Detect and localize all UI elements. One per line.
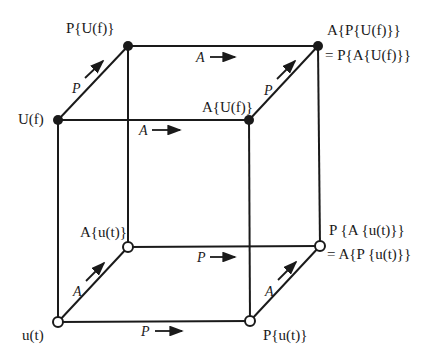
edge-label-bottom-front: P — [140, 324, 150, 339]
label-bottom-back-left: A{u(t)} — [80, 224, 127, 241]
label-top-back-left: P{U(f)} — [66, 20, 115, 37]
label-top-front-right: A{U(f)} — [202, 99, 253, 116]
edge-bottom-left-diag — [58, 247, 128, 322]
vertex-bottom-back-left — [123, 242, 133, 252]
edge-label-top-front: A — [138, 123, 148, 138]
edge-label-top-left-diag: P — [71, 81, 81, 96]
edge-bottom-front — [58, 321, 250, 322]
edge-label-bottom-right-diag: A — [264, 284, 274, 299]
edge-vertical-front-right — [249, 120, 250, 321]
edge-bottom-back — [128, 246, 320, 247]
label-top-back-right-line1: A{P{U(f)}} — [327, 22, 401, 39]
label-top-back-right-line2: = P{A{U(f)}} — [325, 47, 411, 64]
edge-label-bottom-back: P — [196, 250, 206, 265]
edge-top-left-diag — [58, 46, 128, 120]
edge-labels: A A P P P P A A — [71, 50, 274, 339]
edge-label-bottom-left-diag: A — [72, 284, 82, 299]
vertex-top-back-right — [313, 41, 323, 51]
cube-edges — [58, 46, 320, 322]
label-top-front-left: U(f) — [18, 111, 44, 128]
arrow-bottom-right-diag-icon — [278, 262, 296, 280]
edge-vertical-back-right — [318, 46, 320, 246]
vertex-top-front-right — [244, 115, 254, 125]
edge-top-right-diag — [249, 46, 318, 120]
label-bottom-front-left: u(t) — [22, 327, 44, 344]
vertex-bottom-back-right — [315, 241, 325, 251]
label-bottom-back-right-line2: = A{P {u(t)}} — [327, 246, 411, 263]
operator-cube-diagram: A A P P P P A A U(f) P{U(f)} A{U(f)} A{P… — [0, 0, 435, 364]
vertex-top-front-left — [53, 115, 63, 125]
label-bottom-back-right-line1: P {A {u(t)}} — [329, 222, 405, 239]
edge-label-top-right-diag: P — [263, 83, 273, 98]
vertex-top-back-left — [123, 41, 133, 51]
edge-label-top-back: A — [195, 50, 205, 65]
label-bottom-front-right: P{u(t)} — [263, 327, 307, 344]
arrow-bottom-left-diag-icon — [86, 263, 104, 281]
edge-bottom-right-diag — [250, 246, 320, 321]
vertex-bottom-front-right — [245, 316, 255, 326]
arrow-top-right-diag-icon — [277, 61, 295, 79]
vertex-bottom-front-left — [53, 317, 63, 327]
